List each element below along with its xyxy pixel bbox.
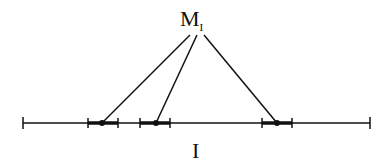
connector-line-3 — [204, 35, 277, 123]
interval-point-3 — [274, 120, 280, 126]
diagram-canvas: MI I — [0, 0, 390, 167]
interval-point-2 — [153, 120, 159, 126]
axis-label: I — [192, 138, 199, 164]
apex-label: MI — [180, 6, 203, 33]
apex-label-main: M — [180, 6, 200, 31]
interval-point-1 — [99, 120, 105, 126]
apex-label-subscript: I — [200, 21, 204, 33]
